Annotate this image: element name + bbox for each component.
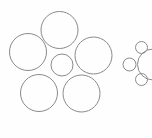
surround-circle-right bbox=[75, 37, 112, 74]
surround-circle-left bbox=[10, 34, 47, 71]
figure-canvas bbox=[0, 0, 152, 138]
surround-dot-left bbox=[123, 58, 136, 71]
surround-circle-bottom-right bbox=[63, 75, 100, 112]
center-circle-small bbox=[51, 54, 73, 76]
surround-circle-top bbox=[41, 12, 78, 49]
left-cluster bbox=[10, 12, 113, 113]
surround-circle-bottom-left bbox=[21, 75, 58, 112]
right-cluster bbox=[123, 42, 152, 86]
circles-illustration bbox=[0, 0, 152, 138]
surround-dot-top bbox=[136, 42, 148, 54]
